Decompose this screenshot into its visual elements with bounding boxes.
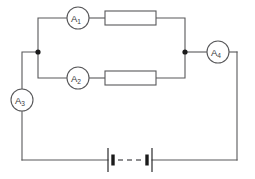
wire-left-node-to-a3 [22, 52, 38, 89]
wire-upper-branch-left [38, 18, 67, 52]
ammeter-a1[interactable]: A1 [67, 7, 89, 29]
ammeter-a2[interactable]: A2 [67, 67, 89, 89]
wire-upper-branch-right [156, 18, 185, 52]
ammeter-a4[interactable]: A4 [207, 41, 229, 63]
circuit-diagram-canvas: A1 A2 A3 A4 [0, 0, 255, 179]
wire-lower-branch-left [38, 52, 67, 78]
junction-dot-right [182, 49, 187, 54]
resistor-lower [105, 71, 156, 85]
wire-lower-branch-right [156, 52, 185, 78]
junction-dot-left [35, 49, 40, 54]
resistor-upper [105, 11, 156, 25]
circuit-schematic: A1 A2 A3 A4 [0, 0, 255, 179]
ammeter-a3[interactable]: A3 [11, 89, 33, 111]
